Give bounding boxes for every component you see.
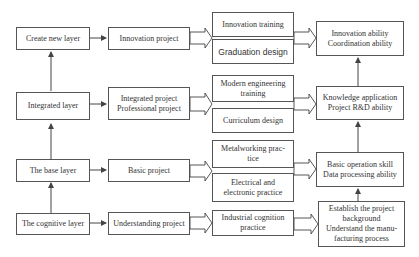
practice-metalworking: Metalworking prac- tice (212, 140, 294, 168)
practice-electrical-electronic: Electrical and electronic practice (212, 173, 294, 202)
ability-innovation-coordination: Innovation ability Coordination ability (316, 21, 404, 56)
project-basic: Basic project (108, 159, 190, 182)
ability-knowledge-rd: Knowledge application Project R&D abilit… (316, 86, 404, 120)
practice-curriculum-design: Curriculum design (212, 108, 294, 133)
ability-basic-operation-data: Basic operation skill Data processing ab… (316, 152, 404, 187)
ability-project-background: Establish the project background Underst… (318, 201, 405, 247)
practice-industrial-cognition: Industrial cognition practice (212, 210, 294, 236)
layer-integrated: Integrated layer (16, 92, 90, 120)
layer-cognitive: The cognitive layer (16, 213, 90, 235)
project-innovation: Innovation project (108, 27, 190, 50)
project-understanding: Understanding project (108, 212, 190, 235)
layer-create-new: Create new layer (16, 27, 90, 50)
layer-base: The base layer (16, 159, 90, 182)
practice-graduation-design: Graduation design (212, 39, 294, 64)
practice-innovation-training: Innovation training (212, 12, 294, 37)
project-integrated-professional: Integrated project Professional project (108, 87, 190, 120)
practice-modern-engineering: Modern engineering training (212, 75, 294, 102)
diagram-canvas: Create new layer Integrated layer The ba… (0, 0, 419, 257)
